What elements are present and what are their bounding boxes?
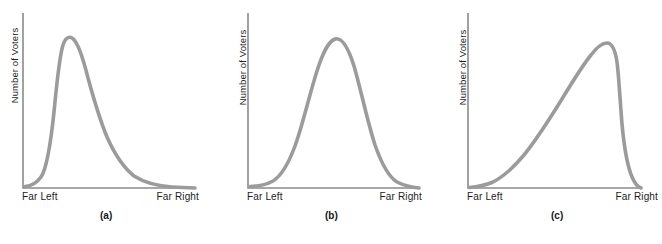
- distribution-curve-a: [25, 37, 195, 188]
- x-axis-label-far-left-c: Far Left: [467, 191, 503, 202]
- x-axis-label-far-left-b: Far Left: [247, 191, 283, 202]
- panel-caption-c: (c): [551, 210, 563, 221]
- chart-panel-a: Number of Voters Far Left Far Right (a): [0, 0, 217, 244]
- y-axis-label-a: Number of Voters: [9, 0, 20, 136]
- plot-area-a: [0, 0, 217, 200]
- y-axis-label-c: Number of Voters: [457, 0, 468, 138]
- distribution-curve-c: [469, 43, 641, 188]
- x-axis-label-far-right-b: Far Right: [380, 191, 422, 202]
- panel-caption-b: (b): [325, 210, 338, 221]
- plot-area-b: [225, 0, 442, 200]
- plot-area-c: [445, 0, 662, 200]
- x-axis-label-far-right-c: Far Right: [616, 191, 658, 202]
- y-axis-label-b: Number of Voters: [237, 0, 248, 138]
- distribution-curve-b: [250, 39, 419, 188]
- x-axis-label-far-right-a: Far Right: [157, 191, 199, 202]
- axes-c: [468, 13, 641, 188]
- panel-caption-a: (a): [100, 210, 112, 221]
- chart-panel-b: Number of Voters Far Left Far Right (b): [225, 0, 442, 244]
- x-axis-label-far-left-a: Far Left: [22, 191, 58, 202]
- axes-a: [23, 13, 196, 188]
- chart-panel-c: Number of Voters Far Left Far Right (c): [445, 0, 662, 244]
